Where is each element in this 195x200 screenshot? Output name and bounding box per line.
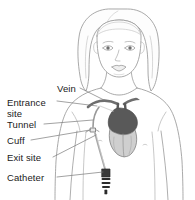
catheter-tunnel-segment	[93, 107, 99, 127]
nipple-left	[98, 140, 102, 141]
label-catheter: Catheter	[7, 173, 44, 184]
armpit-right	[158, 112, 166, 131]
label-cuff: Cuff	[7, 136, 25, 147]
eye-left-iris	[106, 46, 109, 49]
medical-illustration-figure: Vein Entrance site Tunnel Cuff Exit site…	[0, 0, 195, 200]
label-tunnel: Tunnel	[7, 120, 36, 131]
chest-contour-right	[152, 132, 155, 200]
catheter-cuff	[91, 128, 96, 132]
leader-line-tunnel	[44, 120, 93, 124]
arm-inner-left	[70, 131, 77, 200]
chest-contour-left	[83, 132, 86, 200]
leader-line-exit-site	[53, 135, 96, 157]
cuff-wing-right	[96, 130, 100, 132]
arm-inner-right	[161, 131, 168, 200]
label-entrance-site: Entrance site	[7, 98, 46, 119]
label-exit-site: Exit site	[7, 153, 41, 164]
catheter-connector-body	[102, 169, 110, 177]
catheter-connector-tip	[105, 190, 107, 194]
catheter-tube-highlight	[97, 135, 106, 167]
heart-upper-dark	[108, 108, 137, 134]
catheter-external-tube	[95, 133, 105, 169]
eye-right-iris	[128, 46, 131, 49]
nipple-right	[143, 144, 147, 145]
shoulder-line	[101, 88, 137, 95]
leader-line-cuff	[31, 130, 90, 140]
catheter-tip-in-vein	[100, 106, 113, 111]
label-vein: Vein	[57, 84, 76, 95]
leader-line-catheter	[57, 172, 103, 177]
vein-left-branch	[88, 101, 118, 107]
vein-right-branch	[124, 99, 157, 105]
